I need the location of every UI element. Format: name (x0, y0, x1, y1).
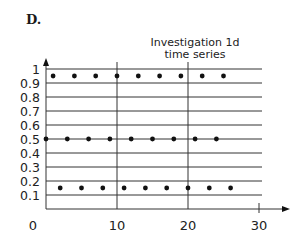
y-tick-label: 0.1 (20, 188, 40, 203)
data-point (72, 74, 77, 79)
data-point (193, 137, 198, 142)
data-point (164, 186, 169, 191)
data-point (65, 137, 70, 142)
y-tick-label: 0.7 (20, 104, 40, 119)
data-point (221, 74, 226, 79)
data-point (108, 137, 113, 142)
data-point (157, 74, 162, 79)
y-tick-label: 0.3 (20, 160, 40, 175)
x-axis-arrow-icon (282, 206, 290, 212)
x-tick-label: 20 (180, 218, 197, 233)
x-tick-label: 30 (251, 218, 268, 233)
chart-plot: 0.10.20.30.40.50.60.70.80.910102030 (0, 0, 308, 251)
x-tick-label: 10 (109, 218, 126, 233)
data-point (58, 186, 63, 191)
data-point (100, 186, 105, 191)
y-tick-label: 0.2 (20, 174, 40, 189)
data-point (44, 137, 49, 142)
data-point (115, 74, 120, 79)
data-point (86, 137, 91, 142)
data-point (143, 186, 148, 191)
data-points (44, 74, 233, 191)
y-tick-label: 0.6 (20, 118, 40, 133)
data-point (150, 137, 155, 142)
data-point (129, 137, 134, 142)
data-point (122, 186, 127, 191)
data-point (228, 186, 233, 191)
tick-labels: 0.10.20.30.40.50.60.70.80.910102030 (20, 62, 267, 234)
x-tick-label: 0 (29, 218, 37, 233)
y-tick-label: 0.9 (20, 76, 40, 91)
data-point (171, 137, 176, 142)
data-point (79, 186, 84, 191)
data-point (214, 137, 219, 142)
data-point (93, 74, 98, 79)
y-tick-label: 0.4 (20, 146, 40, 161)
data-point (136, 74, 141, 79)
data-point (200, 74, 205, 79)
y-tick-label: 0.5 (20, 132, 40, 147)
data-point (207, 186, 212, 191)
data-point (186, 186, 191, 191)
data-point (51, 74, 56, 79)
y-tick-label: 0.8 (20, 90, 40, 105)
data-point (179, 74, 184, 79)
y-tick-label: 1 (32, 62, 40, 77)
y-axis-arrow-icon (43, 58, 49, 66)
